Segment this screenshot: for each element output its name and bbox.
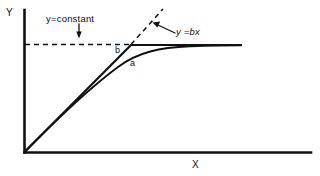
- x-axis-label: X: [192, 160, 199, 170]
- curve-b-label: b: [115, 46, 120, 55]
- figure-canvas: Y X y=constant y =bx b a: [0, 0, 320, 176]
- linear-annotation-label: y =bx: [176, 27, 200, 37]
- linear-arrow-head-icon: [153, 22, 161, 28]
- linear-leader-line: [158, 25, 175, 33]
- constant-arrow-head-icon: [76, 32, 81, 39]
- figure-graphic: [0, 0, 320, 176]
- curve-a-label: a: [130, 59, 135, 68]
- constant-annotation-label: y=constant: [46, 14, 94, 24]
- y-axis-label: Y: [6, 8, 13, 18]
- linear-extension-dashed-line: [131, 9, 163, 45]
